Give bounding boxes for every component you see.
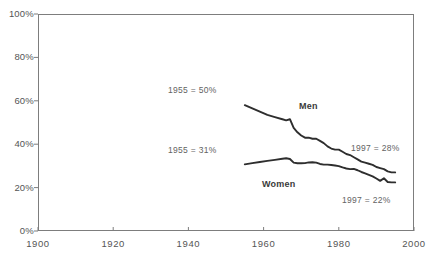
y-tick-label-20pct: 20%	[0, 183, 34, 193]
x-tick-label-2000: 2000	[391, 239, 427, 249]
y-tick-label-40pct: 40%	[0, 139, 34, 149]
x-tick-label-1980: 1980	[316, 239, 362, 249]
annotation-men-end: 1997 = 28%	[351, 143, 400, 153]
y-tick-label-100pct: 100%	[0, 9, 34, 19]
y-tick-label-0pct: 0%	[0, 226, 34, 236]
chart-container: 0%20%40%60%80%100% 190019201940196019802…	[0, 0, 427, 260]
x-tick-label-1900: 1900	[15, 239, 61, 249]
x-tick-label-1920: 1920	[90, 239, 136, 249]
series-label-women-label: Women	[262, 179, 295, 189]
annotation-men-start: 1955 = 50%	[168, 85, 217, 95]
x-tick-label-1960: 1960	[241, 239, 287, 249]
annotation-women-end: 1997 = 22%	[342, 195, 391, 205]
annotation-women-start: 1955 = 31%	[168, 145, 217, 155]
x-axis-ticks	[38, 227, 414, 231]
series-line-men	[245, 105, 395, 172]
x-tick-label-1940: 1940	[165, 239, 211, 249]
y-tick-label-80pct: 80%	[0, 52, 34, 62]
y-axis-ticks	[34, 14, 38, 231]
chart-plot-svg	[0, 0, 427, 260]
y-tick-label-60pct: 60%	[0, 96, 34, 106]
series-label-men-label: Men	[299, 101, 318, 111]
